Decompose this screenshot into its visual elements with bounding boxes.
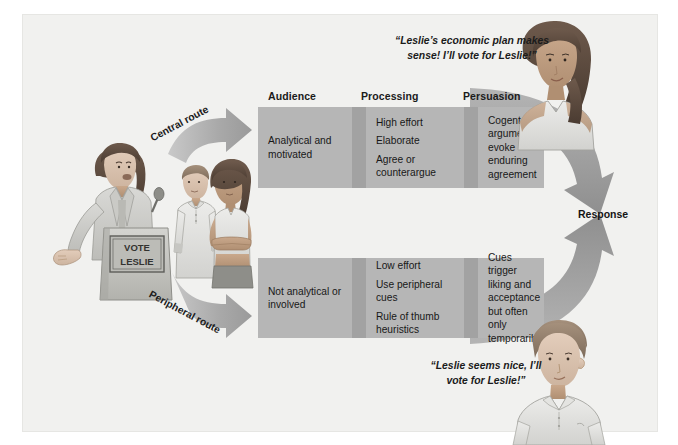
response-label: Response: [578, 208, 628, 220]
column-header-processing: Processing: [361, 90, 419, 102]
peripheral-route-quote: “Leslie seems nice, I’ll vote for Leslie…: [404, 358, 568, 388]
podium-sign-line-2: LESLIE: [120, 256, 153, 267]
diagram-artwork-over: VOTE LESLIE: [0, 0, 678, 445]
central-route-quote: “Leslie’s economic plan makes sense! I’l…: [379, 33, 565, 63]
podium-sign-line-1: VOTE: [124, 242, 150, 253]
column-header-audience: Audience: [268, 90, 316, 102]
illustration-woman-speaking-at-podium: VOTE LESLIE: [53, 143, 172, 300]
column-header-persuasion: Persuasion: [463, 90, 521, 102]
illustration-young-man-and-woman-listening: [174, 159, 253, 288]
diagram-figure: Audience Processing Persuasion Analytica…: [0, 0, 678, 445]
